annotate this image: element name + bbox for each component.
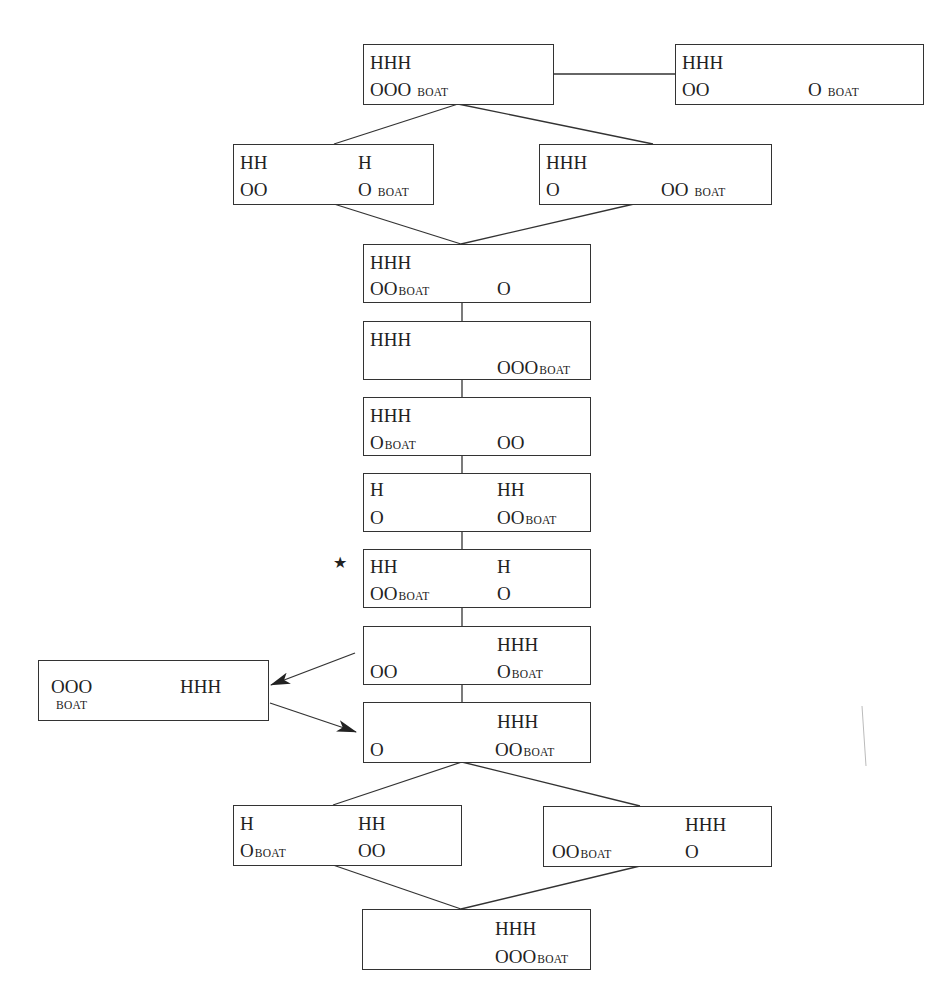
- left-bank-bottom: OBOAT: [240, 841, 286, 863]
- state-box: H OBOAT HH OO: [233, 805, 462, 866]
- left-bank-top: HHH: [546, 153, 587, 172]
- left-bank-top: HH: [240, 153, 267, 172]
- state-box: H O HH OOBOAT: [363, 473, 591, 532]
- edge-s0-s1b: [458, 104, 653, 144]
- edge-s1a-s2: [334, 204, 461, 244]
- state-box: HHH OO OBOAT: [675, 44, 924, 105]
- left-bank-top: H: [240, 814, 254, 833]
- left-bank-bottom: OO: [240, 180, 267, 199]
- left-bank-bottom: OBOAT: [370, 433, 416, 455]
- left-bank-bottom: OOBOAT: [552, 842, 612, 864]
- left-bank-top: HHH: [370, 330, 411, 349]
- right-bank-bottom: OBOAT: [358, 180, 409, 202]
- left-bank-bottom: OOOBOAT: [370, 80, 448, 102]
- left-bank-top: HHH: [370, 253, 411, 272]
- right-bank-bottom: OBOAT: [497, 662, 543, 684]
- right-bank-top: HH: [358, 814, 385, 833]
- right-bank-top: H: [358, 153, 372, 172]
- left-bank-top: HH: [370, 557, 397, 576]
- edge-s8-s9b: [462, 762, 640, 806]
- right-bank-bottom: O: [497, 279, 511, 298]
- left-bank-bottom: OO: [370, 662, 397, 681]
- state-box-starred: HH OOBOAT H O: [363, 549, 591, 608]
- edge-s9b-s10: [461, 866, 640, 909]
- boat-label: BOAT: [694, 186, 725, 198]
- boat-label: BOAT: [523, 746, 554, 758]
- right-bank-top: HH: [497, 480, 524, 499]
- right-bank-bottom: OO: [497, 433, 524, 452]
- boat-label: BOAT: [56, 699, 87, 711]
- right-bank-top: HHH: [495, 919, 536, 938]
- right-bank-bottom: OOOBOAT: [497, 358, 570, 380]
- state-box: HHH O OOBOAT: [363, 702, 591, 763]
- boat-label: BOAT: [828, 86, 859, 98]
- state-box: HHH OBOAT OO: [363, 397, 591, 456]
- boat-label: BOAT: [537, 953, 568, 965]
- boat-label: BOAT: [398, 285, 429, 297]
- state-box-side: OOO BOAT HHH: [38, 660, 269, 721]
- left-bank-bottom: OOBOAT: [370, 279, 430, 301]
- edge-side-s8-arrow: [270, 703, 356, 732]
- state-box: HHH OOOBOAT: [363, 321, 591, 380]
- right-bank-top: H: [497, 557, 511, 576]
- state-box: HHH OO OBOAT: [363, 626, 591, 685]
- boat-label: BOAT: [539, 364, 570, 376]
- edge-s0-s1a: [334, 104, 458, 144]
- boat-label: BOAT: [525, 514, 556, 526]
- star-icon: ★: [333, 555, 347, 571]
- left-bank-top: H: [370, 480, 384, 499]
- boat-label: BOAT: [398, 590, 429, 602]
- edge-s8-s9a: [333, 762, 462, 805]
- left-bank-top: HHH: [370, 53, 411, 72]
- state-box-start: HHH OOOBOAT: [363, 44, 554, 105]
- state-box: HHH O OOBOAT: [539, 144, 772, 205]
- left-bank-bottom: OO: [682, 80, 709, 99]
- right-bank-top: HHH: [497, 635, 538, 654]
- right-bank-top: HHH: [497, 712, 538, 731]
- state-box: HH OO H OBOAT: [233, 144, 434, 205]
- stray-mark: [862, 706, 866, 766]
- right-bank-bottom: OOBOAT: [497, 508, 557, 530]
- right-bank-bottom: OOOBOAT: [495, 947, 568, 969]
- right-bank-bottom: OOBOAT: [495, 740, 555, 762]
- boat-label: BOAT: [378, 186, 409, 198]
- boat-label: BOAT: [255, 847, 286, 859]
- left-bank-bottom: O: [370, 508, 384, 527]
- right-bank-bottom: O: [497, 584, 511, 603]
- left-bank-bottom: O: [370, 740, 384, 759]
- edge-s9a-s10: [333, 865, 461, 909]
- boat-label: BOAT: [385, 439, 416, 451]
- state-box: HHH OOBOAT O: [363, 244, 591, 303]
- right-bank-bottom: OBOAT: [808, 80, 859, 102]
- state-box: HHH OOBOAT O: [543, 806, 772, 867]
- left-bank-top: HHH: [370, 406, 411, 425]
- boat-label: BOAT: [417, 86, 448, 98]
- edge-s7-side-arrow: [271, 653, 355, 685]
- edge-s1b-s2: [461, 204, 634, 244]
- boat-label: BOAT: [512, 668, 543, 680]
- right-bank-bottom: OO: [358, 841, 385, 860]
- right-bank-top: HHH: [685, 815, 726, 834]
- state-box-goal: HHH OOOBOAT: [362, 909, 591, 970]
- left-bank-top: OOO: [51, 677, 92, 696]
- right-bank-bottom: O: [685, 842, 699, 861]
- left-bank-bottom: OOBOAT: [370, 584, 430, 606]
- right-bank-bottom: OOBOAT: [661, 180, 726, 202]
- boat-label: BOAT: [580, 848, 611, 860]
- left-bank-bottom: O: [546, 180, 560, 199]
- right-bank-top: HHH: [180, 677, 221, 696]
- left-bank-top: HHH: [682, 53, 723, 72]
